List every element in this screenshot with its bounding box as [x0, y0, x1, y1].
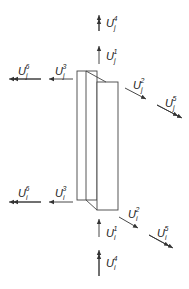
- label-ui5: Ui5: [157, 225, 169, 241]
- node-j-vectors: [9, 15, 182, 118]
- label-ui3: Ui3: [55, 185, 67, 201]
- node-i-vectors: [9, 202, 173, 276]
- label-ui2: Ui2: [128, 206, 140, 222]
- label-ui6: Ui6: [18, 185, 30, 201]
- label-uj4: Uj4: [106, 15, 118, 32]
- label-ui1: Ui1: [106, 225, 118, 241]
- node-i-labels: Ui6 Ui3 Ui2 Ui5 Ui1 Ui4: [18, 185, 169, 271]
- label-uj6: Uj6: [18, 63, 30, 80]
- beam-element: [77, 71, 118, 210]
- label-uj1: Uj1: [106, 48, 118, 65]
- beam-right-face: [97, 82, 118, 210]
- beam-top-diagonal: [86, 71, 106, 82]
- label-ui4: Ui4: [106, 255, 118, 271]
- label-uj3: Uj3: [55, 63, 67, 80]
- beam-bottom-diagonal: [86, 200, 97, 210]
- element-diagram: Uj4 Uj1 Uj6 Uj3 Uj2 Uj5 Ui6 Ui3 Ui2 Ui5 …: [0, 0, 189, 289]
- beam-left-face: [77, 71, 97, 200]
- label-uj2: Uj2: [133, 77, 145, 94]
- label-uj5: Uj5: [165, 95, 177, 112]
